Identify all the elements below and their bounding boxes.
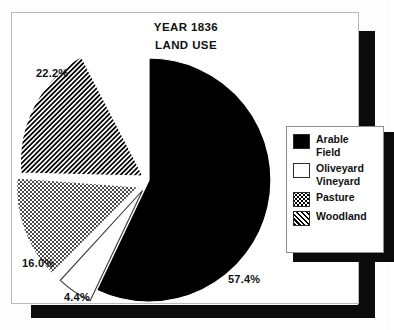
legend-label-line1: Pasture	[316, 191, 355, 204]
legend-item-oliveyard-vineyard: Oliveyard Vineyard	[293, 162, 378, 188]
pie-slice-arable-field	[97, 58, 271, 302]
legend-item-pasture-label: Pasture	[316, 191, 355, 204]
legend-label-line1: Arable	[316, 133, 349, 146]
pie-label-oliveyard-vineyard: 4.4%	[64, 291, 90, 303]
pie-label-pasture: 16.0%	[22, 257, 54, 269]
legend-item-woodland: Woodland	[293, 210, 378, 226]
legend-item-pasture: Pasture	[293, 191, 378, 207]
legend-item-oliveyard-vineyard-label: Oliveyard Vineyard	[316, 162, 364, 188]
pie-label-arable-field: 57.4%	[228, 273, 260, 285]
legend-label-line1: Oliveyard	[316, 162, 364, 175]
diagonal-hatch-swatch-icon	[293, 211, 310, 226]
solid-black-swatch-icon	[293, 134, 310, 149]
panel-drop-shadow-bottom	[31, 305, 375, 318]
legend-label-line2: Field	[316, 146, 349, 159]
legend-item-arable-field-label: Arable Field	[316, 133, 349, 159]
chart-panel: YEAR 1836 LAND USE	[11, 12, 359, 304]
legend-label-line1: Woodland	[316, 210, 367, 223]
legend-label-line2: Vineyard	[316, 175, 364, 188]
legend-item-arable-field: Arable Field	[293, 133, 378, 159]
pie-label-woodland: 22.2%	[36, 67, 68, 79]
white-swatch-icon	[293, 163, 310, 178]
chart-legend: Arable Field Oliveyard Vineyard Pasture	[286, 126, 384, 253]
dot-stipple-swatch-icon	[293, 192, 310, 207]
legend-item-woodland-label: Woodland	[316, 210, 367, 223]
